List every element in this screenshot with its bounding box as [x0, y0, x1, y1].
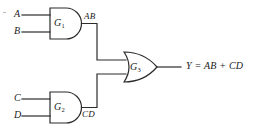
gate-label-g2: G2 [54, 102, 64, 112]
gate-label-g2-subscript: 2 [62, 106, 65, 113]
input-label-d: D [14, 110, 21, 120]
circuit-diagram-figure: A B C D G1 G2 G3 AB CD Y = AB + CD [0, 0, 254, 132]
input-label-a: A [14, 9, 20, 19]
gate-label-g3: G3 [130, 62, 140, 72]
input-label-c: C [14, 93, 21, 103]
wire-g2-to-g3 [82, 74, 127, 108]
gate-label-g1-subscript: 1 [62, 22, 65, 29]
wire-label-cd: CD [82, 110, 95, 119]
gate-label-g3-text: G [130, 61, 137, 72]
scan-artifact-speck [3, 12, 6, 13]
wire-g1-to-g3 [82, 24, 127, 61]
output-expression-label: Y = AB + CD [186, 61, 243, 71]
gate-label-g3-subscript: 3 [138, 66, 141, 73]
gate-label-g1: G1 [54, 18, 64, 28]
gate-label-g1-text: G [54, 17, 61, 28]
input-label-b: B [14, 26, 20, 36]
wire-label-ab: AB [84, 12, 95, 21]
gate-label-g2-text: G [54, 101, 61, 112]
